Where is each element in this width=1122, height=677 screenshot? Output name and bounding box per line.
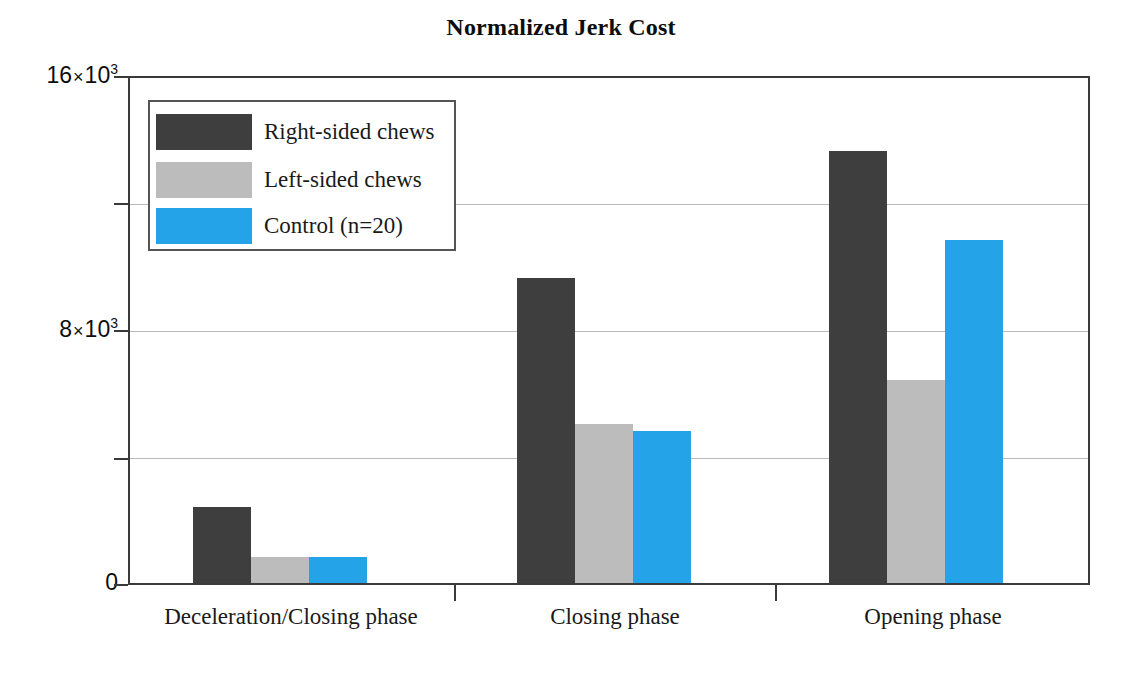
bar-deceleration-closing-left-sided-chews (251, 557, 309, 583)
y-axis-base-2: 10 (85, 316, 111, 342)
y-tick-mark-12000 (114, 203, 128, 205)
x-tick-mark-separator-2 (775, 585, 777, 601)
bar-closing-control (633, 431, 691, 583)
y-axis-label-8000-mantissa: 8 (59, 316, 72, 342)
legend-label-control: Control (n=20) (264, 209, 403, 243)
y-axis-label-8000: 8×103 (8, 316, 118, 343)
legend: Right-sided chews Left-sided chews Contr… (148, 100, 456, 251)
y-axis-label-16000-exponent: 3 (110, 61, 118, 77)
x-axis-label-deceleration-closing-phase: Deceleration/Closing phase (128, 604, 454, 630)
bar-deceleration-closing-right-sided-chews (193, 507, 251, 583)
bar-closing-right-sided-chews (517, 278, 575, 583)
page-title: Normalized Jerk Cost (0, 14, 1122, 41)
y-axis-label-16000-mantissa: 16 (47, 62, 73, 88)
bar-closing-left-sided-chews (575, 424, 633, 583)
legend-swatch-left-sided-chews (156, 162, 252, 198)
y-axis-label-0: 0 (8, 569, 118, 596)
bar-opening-control (945, 240, 1003, 583)
y-axis-multiply-symbol-2: × (72, 321, 85, 341)
bar-deceleration-closing-control (309, 557, 367, 583)
legend-label-right-sided-chews: Right-sided chews (264, 115, 435, 149)
legend-swatch-control (156, 208, 252, 244)
y-axis-base: 10 (85, 62, 111, 88)
y-tick-mark-8000 (114, 330, 128, 332)
y-tick-mark-4000 (114, 458, 128, 460)
y-tick-mark-16000 (114, 76, 128, 78)
legend-swatch-right-sided-chews (156, 114, 252, 150)
x-axis-label-closing-phase: Closing phase (455, 604, 775, 630)
bar-opening-right-sided-chews (829, 151, 887, 583)
legend-label-left-sided-chews: Left-sided chews (264, 163, 422, 197)
y-tick-mark-0 (114, 584, 128, 586)
chart-page: Normalized Jerk Cost 16×103 8×103 0 Dece… (0, 0, 1122, 677)
x-tick-mark-separator-1 (454, 585, 456, 601)
bar-opening-left-sided-chews (887, 380, 945, 583)
y-axis-label-8000-exponent: 3 (110, 315, 118, 331)
y-axis-label-16000: 16×103 (8, 62, 118, 89)
x-axis-label-opening-phase: Opening phase (776, 604, 1090, 630)
y-axis-multiply-symbol: × (72, 67, 85, 87)
